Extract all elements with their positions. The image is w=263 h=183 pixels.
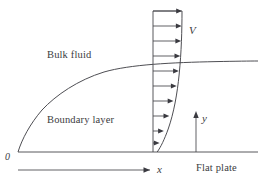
flat-plate-label: Flat plate: [196, 163, 237, 174]
velocity-arrow: [153, 24, 182, 29]
origin-label: 0: [5, 152, 10, 162]
y-axis-label: y: [202, 113, 207, 124]
bulk-fluid-label: Bulk fluid: [47, 50, 91, 61]
velocity-arrow: [153, 9, 182, 14]
x-axis-label: x: [157, 164, 162, 175]
boundary-layer-figure: Bulk fluid Boundary layer Flat plate V y…: [0, 0, 263, 183]
velocity-arrow: [153, 54, 180, 59]
y-axis-arrowhead: [193, 111, 198, 118]
velocity-arrow: [153, 114, 169, 119]
velocity-arrow: [153, 141, 160, 146]
velocity-arrow: [153, 69, 179, 74]
velocity-arrow: [153, 99, 174, 104]
boundary-layer-label: Boundary layer: [47, 115, 114, 126]
velocity-arrow: [153, 84, 177, 89]
velocity-arrow: [153, 39, 181, 44]
figure-canvas: [0, 0, 263, 183]
boundary-layer-curve: [18, 61, 258, 152]
x-axis-arrowhead: [144, 167, 151, 172]
velocity-arrow: [153, 129, 164, 134]
free-stream-velocity-label: V: [189, 25, 196, 36]
